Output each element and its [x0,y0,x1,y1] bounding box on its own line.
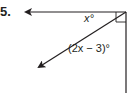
angle-diagram [0,0,132,93]
angle-label-x: x° [84,12,94,24]
diagonal-ray [39,12,126,67]
angle-label-2x-minus-3: (2x − 3)° [68,42,110,54]
